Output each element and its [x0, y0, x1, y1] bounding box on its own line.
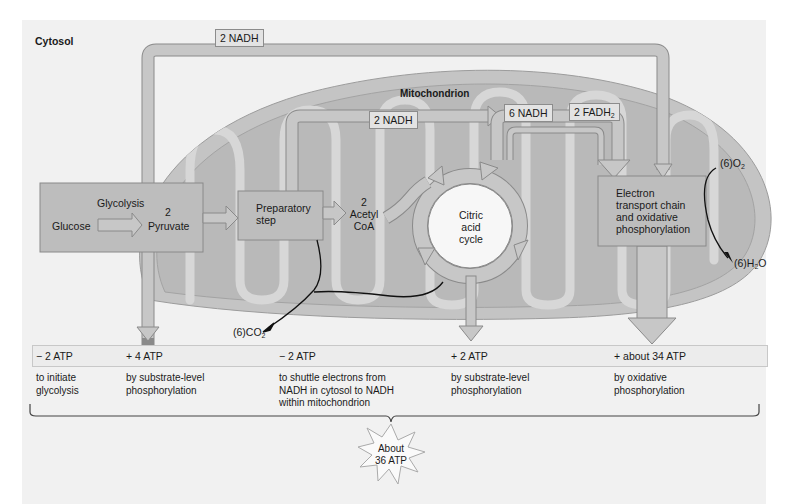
- prep-nadh-tag: 2 NADH: [369, 111, 418, 129]
- preparatory-step-box: [238, 191, 323, 240]
- etc-label-line1: Electron: [616, 187, 655, 199]
- cytosol-nadh-tag: 2 NADH: [215, 29, 264, 47]
- atp-desc-oxidative-gain: by oxidative phosphorylation: [614, 372, 685, 397]
- citric-label-line2: acid: [446, 221, 496, 233]
- preparatory-label-line2: step: [256, 214, 276, 226]
- oxygen-label: (6)O2: [720, 157, 745, 169]
- atp-desc-shuttle-cost: to shuttle electrons from NADH in cytoso…: [279, 372, 394, 410]
- atp-desc-glycolysis-gain: by substrate-level phosphorylation: [126, 372, 204, 397]
- diagram-graphics: [0, 0, 794, 504]
- total-line1: About: [366, 443, 416, 455]
- atp-yield-glycolysis-gain: + 4 ATP: [126, 350, 163, 362]
- citric-label-line3: cycle: [446, 233, 496, 245]
- etc-label-line4: phosphorylation: [616, 223, 690, 235]
- arrow-head-cycle-atp: [459, 326, 483, 341]
- atp-desc-glycolysis-cost: to initiate glycolysis: [36, 372, 79, 397]
- atp-desc-citric-gain: by substrate-level phosphorylation: [451, 372, 529, 397]
- etc-label-line2: transport chain: [616, 199, 685, 211]
- arrow-head-etc-atp: [628, 318, 676, 344]
- atp-yield-oxidative-gain: + about 34 ATP: [614, 350, 686, 362]
- cycle-nadh-tag: 6 NADH: [504, 104, 553, 122]
- total-bracket: [30, 404, 759, 422]
- arrow-head-glycolysis-atp: [137, 327, 159, 341]
- pyruvate-count: 2: [147, 206, 189, 218]
- mitochondrion-label: Mitochondrion: [400, 88, 469, 100]
- glycolysis-label: Glycolysis: [97, 197, 144, 209]
- acetyl-label: Acetyl: [344, 208, 384, 220]
- atp-yield-citric-gain: + 2 ATP: [451, 350, 488, 362]
- citric-label-line1: Citric: [446, 209, 496, 221]
- atp-yield-glycolysis-cost: − 2 ATP: [36, 350, 73, 362]
- cycle-fadh2-tag: 2 FADH2: [569, 103, 620, 121]
- coa-label: CoA: [344, 220, 384, 232]
- preparatory-label-line1: Preparatory: [256, 202, 311, 214]
- atp-yield-shuttle-cost: − 2 ATP: [279, 350, 316, 362]
- pyruvate-label: Pyruvate: [148, 220, 189, 232]
- cellular-respiration-diagram: Cytosol Mitochondrion 2 NADH 2 NADH 6 NA…: [0, 0, 794, 504]
- cytosol-label: Cytosol: [35, 35, 74, 47]
- etc-label-line3: and oxidative: [616, 211, 678, 223]
- glucose-label: Glucose: [52, 220, 91, 232]
- total-line2: 36 ATP: [366, 455, 416, 467]
- water-label: (6)H2O: [734, 257, 767, 269]
- acetyl-count: 2: [344, 196, 384, 208]
- co2-label: (6)CO2: [233, 326, 266, 338]
